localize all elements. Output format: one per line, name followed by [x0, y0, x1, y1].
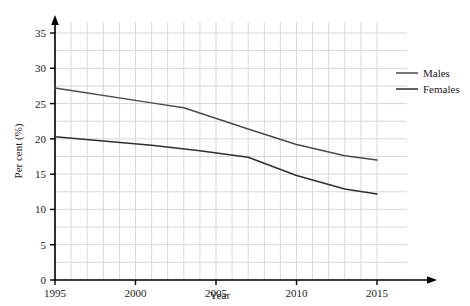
y-axis-tick-label: 35: [35, 27, 47, 39]
chart-figure: 05101520253035 19952000200520102015 Per …: [0, 0, 470, 306]
x-axis-title: Year: [210, 289, 231, 301]
y-axis-tick-label: 5: [41, 239, 47, 251]
legend-label-males: Males: [423, 67, 450, 79]
grid-lines-vertical: [55, 22, 377, 280]
chart-background: [0, 0, 470, 306]
x-axis-tick-label: 1995: [44, 287, 67, 299]
x-axis-tick-label: 2010: [286, 287, 309, 299]
x-axis-tick-label: 2015: [366, 287, 389, 299]
y-axis-tick-label: 10: [35, 203, 47, 215]
line-chart: 05101520253035 19952000200520102015 Per …: [0, 0, 470, 306]
legend-label-females: Females: [423, 83, 460, 95]
y-axis-tick-label: 15: [35, 168, 47, 180]
y-axis-tick-label: 30: [35, 62, 47, 74]
y-axis-tick-label: 20: [35, 133, 47, 145]
y-axis-title: Per cent (%): [12, 123, 25, 178]
x-axis-tick-label: 2000: [125, 287, 148, 299]
y-axis-tick-label: 0: [41, 274, 47, 286]
y-axis-tick-label: 25: [35, 98, 47, 110]
